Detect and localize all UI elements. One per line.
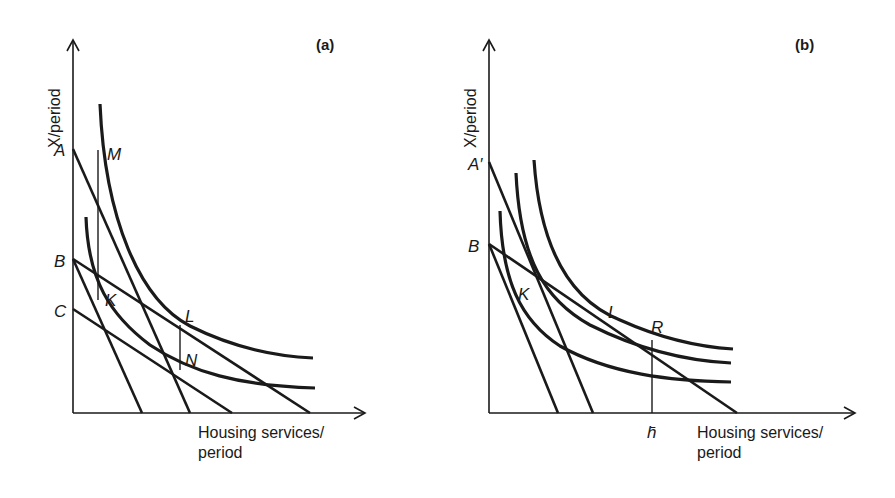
- y-axis-label-b: X/period: [462, 88, 479, 148]
- label-L-a: L: [185, 307, 194, 326]
- label-K-a: K: [105, 291, 117, 310]
- label-B-b: B: [468, 237, 479, 256]
- budget-line-B-flat-b: [489, 244, 737, 413]
- panel-a: (a) X/period A B C M K L N Housing servi…: [46, 36, 365, 461]
- diagram-canvas: (a) X/period A B C M K L N Housing servi…: [0, 0, 895, 498]
- label-N: N: [185, 351, 198, 370]
- x-axis-label-b-line1: Housing services/: [697, 424, 824, 441]
- panel-title-a: (a): [316, 36, 334, 53]
- label-R: R: [651, 318, 663, 337]
- panel-b: (b) X/period A′ B K L R h̄ Housing servi…: [462, 36, 855, 461]
- label-L-b: L: [608, 303, 617, 322]
- label-h-bar: h̄: [647, 423, 656, 442]
- x-axis-label-a-line2: period: [198, 444, 242, 461]
- label-A-prime: A′: [467, 155, 483, 174]
- label-M: M: [107, 145, 122, 164]
- budget-line-B-steep-b: [489, 244, 558, 413]
- panel-title-b: (b): [795, 36, 814, 53]
- indifference-curve-high-b: [534, 160, 733, 349]
- budget-line-C: [73, 309, 232, 413]
- indifference-curve-high-a: [100, 104, 313, 358]
- label-K-b: K: [518, 285, 530, 304]
- label-A: A: [53, 141, 65, 160]
- x-axis-label-a-line1: Housing services/: [198, 424, 325, 441]
- y-axis-label-a: X/period: [46, 88, 63, 148]
- label-C: C: [54, 302, 67, 321]
- label-B-a: B: [54, 252, 65, 271]
- x-axis-label-b-line2: period: [697, 444, 741, 461]
- budget-line-A-prime: [489, 162, 593, 413]
